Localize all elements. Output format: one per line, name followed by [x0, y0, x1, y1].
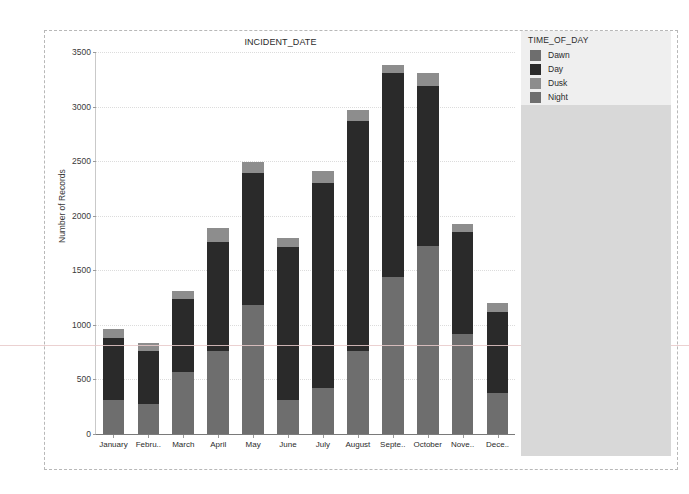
bar-segment-day[interactable]	[242, 173, 264, 305]
bar-segment-dusk[interactable]	[382, 65, 404, 73]
x-axis: JanuaryFebru..MarchAprilMayJuneJulyAugus…	[96, 435, 515, 465]
bar-segment-day[interactable]	[172, 299, 194, 372]
y-axis-tick-label: 1500	[72, 265, 91, 275]
x-axis-tick-label: May	[246, 440, 261, 449]
bar-segment-day[interactable]	[417, 86, 439, 246]
bar-segment-day[interactable]	[487, 312, 509, 393]
bar-stack[interactable]	[382, 65, 404, 434]
bar-segment-day[interactable]	[103, 338, 125, 400]
bar-segment-dusk[interactable]	[487, 303, 509, 312]
bar-segment-dusk[interactable]	[172, 291, 194, 299]
bar-segment-dawn[interactable]	[347, 351, 369, 434]
bar-stack[interactable]	[417, 73, 439, 434]
x-axis-tick-mark	[393, 435, 394, 438]
x-axis-tick-label: August	[345, 440, 370, 449]
x-axis-tick-mark	[463, 435, 464, 438]
legend-swatch-day	[530, 64, 541, 75]
bar-column[interactable]	[242, 52, 264, 434]
bar-segment-dawn[interactable]	[487, 393, 509, 434]
bar-segment-dawn[interactable]	[242, 305, 264, 434]
y-axis-tick-label: 0	[86, 429, 91, 439]
legend-card: TIME_OF_DAY DawnDayDuskNight	[521, 31, 671, 105]
x-axis-tick-mark	[288, 435, 289, 438]
bar-stack[interactable]	[138, 343, 160, 434]
x-axis-tick-label: March	[172, 440, 194, 449]
bar-segment-day[interactable]	[207, 242, 229, 351]
bar-segment-dusk[interactable]	[312, 171, 334, 183]
bar-segment-dusk[interactable]	[103, 329, 125, 338]
bar-segment-dawn[interactable]	[172, 372, 194, 434]
y-axis-tick-label: 3000	[72, 102, 91, 112]
bar-segment-day[interactable]	[452, 232, 474, 334]
x-axis-tick-mark	[183, 435, 184, 438]
legend-item-day[interactable]: Day	[530, 62, 563, 76]
legend-swatch-dawn	[530, 50, 541, 61]
y-axis-tick-label: 2500	[72, 156, 91, 166]
bar-segment-dawn[interactable]	[277, 400, 299, 434]
bar-segment-dawn[interactable]	[207, 351, 229, 434]
x-axis-tick-mark	[358, 435, 359, 438]
legend-swatch-dusk	[530, 78, 541, 89]
x-axis-tick-label: Febru..	[136, 440, 161, 449]
bar-chart[interactable]: INCIDENT_DATE Number of Records 05001000…	[45, 31, 516, 469]
legend-label: Dawn	[548, 50, 570, 60]
bar-column[interactable]	[487, 52, 509, 434]
bar-stack[interactable]	[452, 224, 474, 434]
legend-item-dawn[interactable]: Dawn	[530, 48, 570, 62]
x-axis-tick-label: October	[413, 440, 441, 449]
bar-column[interactable]	[172, 52, 194, 434]
bar-stack[interactable]	[277, 238, 299, 434]
x-axis-tick-mark	[253, 435, 254, 438]
bar-segment-day[interactable]	[347, 121, 369, 351]
bar-segment-day[interactable]	[138, 351, 160, 404]
bar-column[interactable]	[382, 52, 404, 434]
y-axis-tick-label: 3500	[72, 47, 91, 57]
x-axis-tick-label: Dece..	[486, 440, 509, 449]
x-axis-tick-label: June	[279, 440, 296, 449]
bar-segment-dusk[interactable]	[207, 228, 229, 242]
bar-stack[interactable]	[312, 171, 334, 434]
bar-column[interactable]	[347, 52, 369, 434]
bar-segment-dusk[interactable]	[417, 73, 439, 86]
x-axis-tick-mark	[323, 435, 324, 438]
chart-title: INCIDENT_DATE	[45, 37, 516, 47]
x-axis-tick-mark	[498, 435, 499, 438]
bar-segment-dusk[interactable]	[277, 238, 299, 247]
legend-item-dusk[interactable]: Dusk	[530, 76, 567, 90]
bar-segment-dawn[interactable]	[452, 334, 474, 434]
x-axis-tick-mark	[428, 435, 429, 438]
y-axis-tick-label: 1000	[72, 320, 91, 330]
x-axis-tick-label: July	[316, 440, 330, 449]
bar-stack[interactable]	[172, 291, 194, 434]
bar-stack[interactable]	[207, 228, 229, 434]
legend-swatch-night	[530, 92, 541, 103]
bar-segment-dawn[interactable]	[138, 404, 160, 434]
bar-segment-dusk[interactable]	[452, 224, 474, 232]
legend-label: Dusk	[548, 78, 567, 88]
bar-stack[interactable]	[242, 162, 264, 434]
x-axis-tick-mark	[148, 435, 149, 438]
bar-segment-dawn[interactable]	[382, 277, 404, 434]
bar-column[interactable]	[312, 52, 334, 434]
legend-item-night[interactable]: Night	[530, 90, 568, 104]
y-axis-tick-label: 500	[77, 374, 91, 384]
bar-segment-day[interactable]	[382, 73, 404, 277]
bar-column[interactable]	[138, 52, 160, 434]
bar-segment-day[interactable]	[277, 247, 299, 400]
bar-column[interactable]	[417, 52, 439, 434]
bar-column[interactable]	[452, 52, 474, 434]
y-axis-tick-label: 2000	[72, 211, 91, 221]
bar-segment-dusk[interactable]	[347, 110, 369, 121]
bar-segment-dawn[interactable]	[417, 246, 439, 434]
bar-column[interactable]	[277, 52, 299, 434]
bar-column[interactable]	[103, 52, 125, 434]
legend-title: TIME_OF_DAY	[528, 35, 589, 45]
bar-segment-dusk[interactable]	[242, 162, 264, 173]
bar-column[interactable]	[207, 52, 229, 434]
bar-segment-dawn[interactable]	[103, 400, 125, 434]
bar-segment-dawn[interactable]	[312, 388, 334, 434]
bar-stack[interactable]	[487, 303, 509, 434]
x-axis-tick-label: Nove..	[451, 440, 474, 449]
bar-stack[interactable]	[347, 110, 369, 434]
bar-segment-day[interactable]	[312, 183, 334, 388]
